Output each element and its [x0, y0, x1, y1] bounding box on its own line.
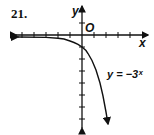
curve [18, 37, 108, 124]
x-axis-label: x [139, 36, 146, 50]
origin-label: O [85, 21, 94, 35]
y-axis-label: y [72, 4, 79, 18]
equation-label: y = −3ˣ [107, 68, 143, 80]
